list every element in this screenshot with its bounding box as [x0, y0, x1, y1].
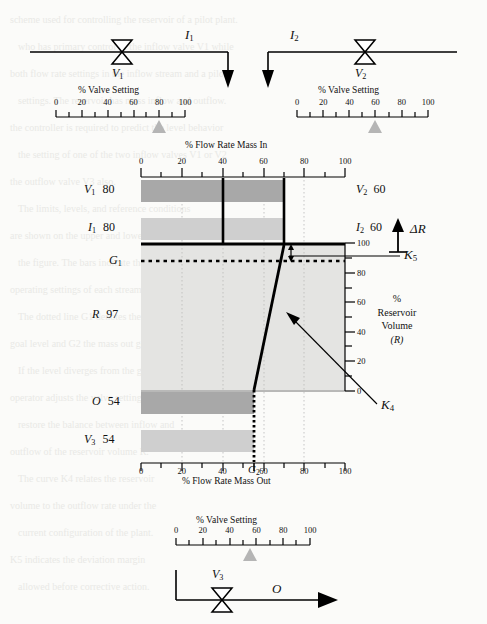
valve-right-tick-20: 20: [309, 97, 337, 107]
valve-right-tick-60: 60: [362, 97, 390, 107]
row-label-o: O 54: [92, 395, 120, 407]
valve-left-tick-40: 40: [94, 97, 122, 107]
arrowhead-outflow: [318, 592, 338, 608]
figure-canvas: scheme used for controlling the reservoi…: [0, 0, 487, 624]
valve-right-tick-80: 80: [388, 97, 416, 107]
reservoir-tick-20: 20: [357, 356, 379, 366]
flow-in-tick-0: 0: [127, 156, 155, 166]
flow-out-tick-40: 40: [209, 466, 237, 476]
arrowhead-inflow-right: [262, 70, 274, 88]
bar-o: [141, 392, 254, 414]
bar-v3: [141, 430, 254, 452]
reservoir-region-fill: [141, 245, 345, 390]
valve-right-tick-40: 40: [335, 97, 363, 107]
label-k4: K4: [381, 398, 394, 413]
valve-scale-right-marker[interactable]: [368, 120, 382, 133]
caption-line-reservoir: Reservoir: [366, 306, 428, 320]
row-label-v3: V3 54: [84, 433, 114, 447]
label-g2: G2: [248, 464, 260, 476]
flow-in-tick-40: 40: [209, 156, 237, 166]
label-k5: K5: [404, 248, 417, 263]
title-valve-scale-right: % Valve Setting: [318, 86, 379, 96]
row-label-i2: I2 60: [356, 221, 382, 235]
valve-bottom-tick-0: 0: [162, 525, 190, 535]
valve-bottom-tick-60: 60: [242, 525, 270, 535]
valve-left-tick-80: 80: [145, 97, 173, 107]
valve-right-tick-100: 100: [414, 97, 442, 107]
caption-line-percent: %: [366, 292, 428, 306]
flow-in-tick-60: 60: [249, 156, 277, 166]
valve-scale-right-axis: [297, 110, 428, 117]
axis-reservoir: [345, 243, 355, 391]
flow-out-tick-80: 80: [290, 466, 318, 476]
valve-left-tick-0: 0: [42, 97, 70, 107]
valve-scale-left-axis: [56, 110, 185, 117]
bottom-piping: [176, 570, 320, 600]
valve-scale-bottom-marker[interactable]: [243, 548, 257, 561]
caption-line-volume: Volume: [366, 319, 428, 333]
reservoir-tick-80: 80: [357, 268, 379, 278]
flow-in-tick-100: 100: [331, 156, 359, 166]
row-label-v2: V2 60: [356, 183, 385, 197]
valve-bottom-tick-100: 100: [296, 525, 324, 535]
row-label-v1: V1 80: [84, 183, 114, 197]
title-flow-in: % Flow Rate Mass In: [185, 141, 267, 151]
valve-scale-bottom-axis: [176, 538, 310, 545]
label-valve-v3: V3: [212, 568, 223, 582]
valve-bottom-tick-40: 40: [216, 525, 244, 535]
label-valve-v1: V1: [112, 67, 123, 81]
label-delta-r: ΔR: [410, 222, 426, 235]
label-stream-i2: I2: [290, 28, 299, 43]
reservoir-tick-0: 0: [357, 386, 379, 396]
label-stream-i1: I1: [185, 28, 194, 43]
flow-out-tick-20: 20: [168, 466, 196, 476]
valve-left-tick-20: 20: [68, 97, 96, 107]
axis-reservoir-caption: % Reservoir Volume (R): [366, 292, 428, 346]
reservoir-tick-100: 100: [357, 238, 379, 248]
row-label-i1: I1 80: [88, 221, 115, 235]
flow-in-tick-80: 80: [290, 156, 318, 166]
bar-v1: [141, 180, 284, 202]
row-label-r: R 97: [92, 308, 118, 320]
label-valve-v2: V2: [355, 67, 366, 81]
valve-bottom-tick-20: 20: [189, 525, 217, 535]
flow-in-tick-20: 20: [168, 156, 196, 166]
label-outflow-o: O: [272, 582, 281, 595]
top-piping: [30, 52, 457, 72]
axis-mass-in: [141, 168, 345, 177]
caption-line-r: (R): [366, 333, 428, 347]
valve-right-tick-0: 0: [283, 97, 311, 107]
flow-out-tick-100: 100: [331, 466, 359, 476]
row-label-g1: G1: [109, 254, 122, 268]
arrowhead-inflow-left: [222, 70, 234, 88]
title-flow-out: % Flow Rate Mass Out: [182, 477, 271, 487]
bar-i1: [141, 218, 284, 240]
valve-left-tick-100: 100: [171, 97, 199, 107]
valve-bottom-tick-80: 80: [269, 525, 297, 535]
valve-left-tick-60: 60: [119, 97, 147, 107]
title-valve-scale-left: % Valve Setting: [78, 86, 139, 96]
flow-out-tick-0: 0: [127, 466, 155, 476]
valve-scale-left-marker[interactable]: [152, 120, 166, 133]
